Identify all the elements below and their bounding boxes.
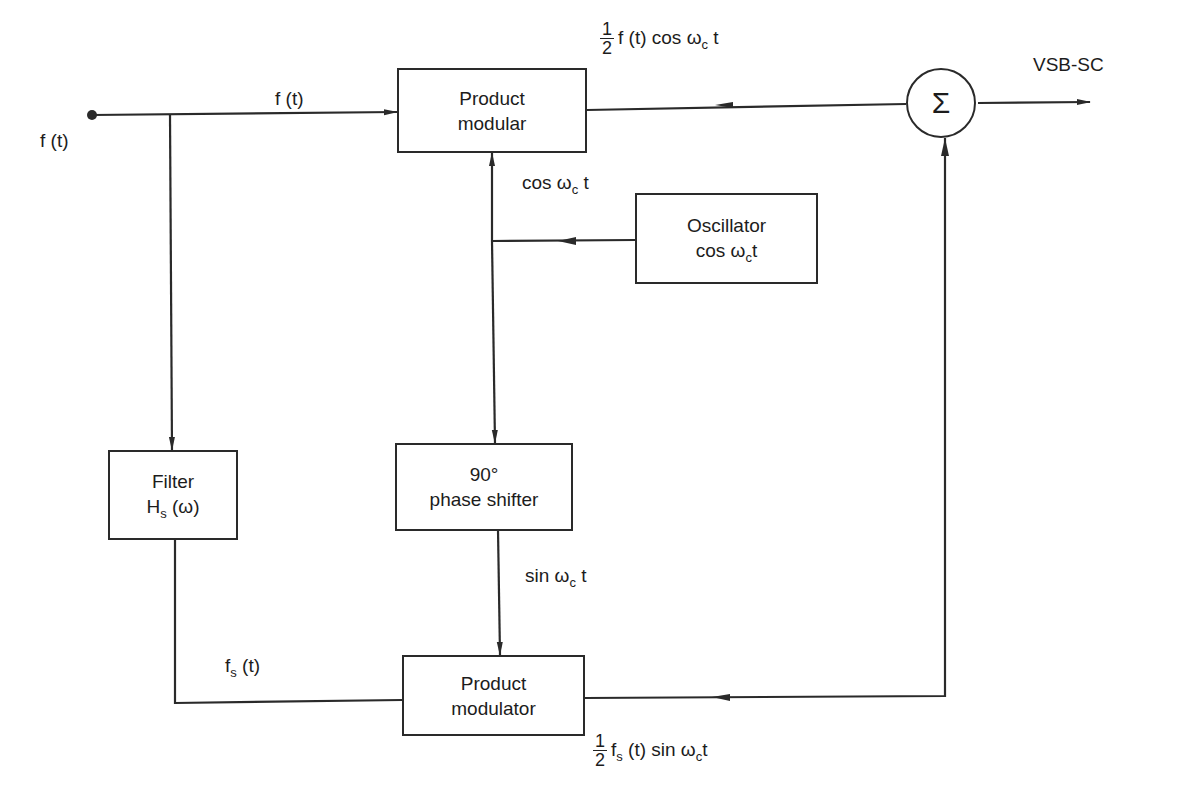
modular-input-label: f (t): [275, 88, 304, 110]
phase-shifter-line2: phase shifter: [430, 487, 539, 512]
product-modulator-block: Product modulator: [402, 655, 585, 736]
oscillator-line2: cos ωct: [696, 238, 757, 265]
cos-carrier-label: cos ωc t: [522, 172, 589, 196]
product-modular-line2: modular: [458, 111, 527, 136]
oscillator-line1: Oscillator: [687, 213, 766, 238]
phase-shifter-line1: 90°: [470, 462, 499, 487]
product-modular-line1: Product: [459, 86, 524, 111]
sigma-symbol: Σ: [932, 86, 951, 120]
summer-block: Σ: [906, 68, 976, 138]
sin-carrier-label: sin ωc t: [525, 565, 586, 589]
filter-block: Filter Hs (ω): [108, 450, 238, 540]
filter-line2: Hs (ω): [146, 494, 199, 521]
filtered-signal-label: fs (t): [225, 655, 260, 679]
upper-output-label: 12f (t) cos ωc t: [600, 20, 719, 57]
half-fraction: 12: [600, 20, 614, 57]
input-signal-label: f (t): [40, 130, 69, 152]
connection-wires: [0, 0, 1185, 811]
output-label: VSB-SC: [1033, 54, 1104, 76]
product-modulator-line2: modulator: [451, 696, 536, 721]
product-modulator-line1: Product: [461, 671, 526, 696]
filter-line1: Filter: [152, 469, 194, 494]
lower-output-label: 12fs (t) sin ωct: [593, 732, 707, 769]
oscillator-block: Oscillator cos ωct: [635, 193, 818, 284]
phase-shifter-block: 90° phase shifter: [395, 443, 573, 531]
half-fraction: 12: [593, 732, 607, 769]
product-modular-block: Product modular: [397, 68, 587, 153]
